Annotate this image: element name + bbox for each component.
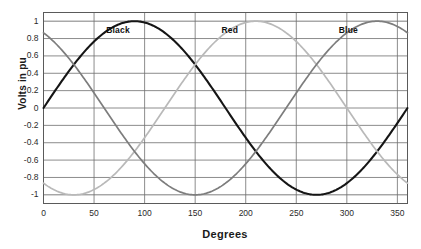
x-axis-title: Degrees <box>43 228 407 240</box>
chart-figure: Volts in pu Degrees 10.80.60.40.20-0.2-0… <box>0 0 421 249</box>
y-tick-label: -0.8 <box>5 173 39 182</box>
x-tick-label: 300 <box>327 209 367 218</box>
x-tick-label: 200 <box>226 209 266 218</box>
y-tick-label: 0.4 <box>5 69 39 78</box>
y-tick-label: 0.8 <box>5 34 39 43</box>
x-tick-label: 0 <box>24 209 64 218</box>
y-tick-label: -0.4 <box>5 138 39 147</box>
y-tick-label: 0 <box>5 104 39 113</box>
x-tick-label: 350 <box>377 209 417 218</box>
y-tick-label: -0.6 <box>5 156 39 165</box>
x-tick-label: 250 <box>276 209 316 218</box>
series-label-black: Black <box>106 25 130 35</box>
series-label-red: Red <box>221 25 238 35</box>
y-tick-label: 0.6 <box>5 51 39 60</box>
y-tick-label: 1 <box>5 17 39 26</box>
y-tick-label: -0.2 <box>5 121 39 130</box>
x-tick-label: 50 <box>74 209 114 218</box>
y-tick-label: 0.2 <box>5 86 39 95</box>
x-tick-label: 150 <box>175 209 215 218</box>
x-tick-label: 100 <box>125 209 165 218</box>
y-tick-label: -1 <box>5 190 39 199</box>
series-label-blue: Blue <box>339 25 358 35</box>
